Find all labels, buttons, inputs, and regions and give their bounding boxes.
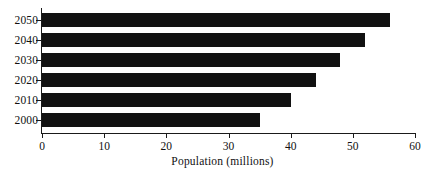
bar-row xyxy=(42,10,415,30)
x-tick-mark-30 xyxy=(229,133,230,138)
bar-2040 xyxy=(42,33,365,47)
x-tick-mark-40 xyxy=(291,133,292,138)
bar-row xyxy=(42,110,415,130)
bar-2000 xyxy=(42,113,260,127)
plot-area xyxy=(42,8,415,133)
x-tick-label-50: 50 xyxy=(333,140,373,152)
bar-2010 xyxy=(42,93,291,107)
y-tick-2010 xyxy=(36,100,42,101)
y-tick-label-wrap: 2030 xyxy=(0,50,38,70)
x-tick-mark-50 xyxy=(353,133,354,138)
bar-row xyxy=(42,90,415,110)
y-tick-label-wrap: 2050 xyxy=(0,10,38,30)
y-axis-labels: 205020402030202020102000 xyxy=(0,8,38,133)
y-tick-label-2020: 2020 xyxy=(2,70,38,90)
x-tick-label-30: 30 xyxy=(209,140,249,152)
y-tick-label-2000: 2000 xyxy=(2,110,38,130)
y-tick-label-wrap: 2040 xyxy=(0,30,38,50)
bar-2030 xyxy=(42,53,340,67)
bar-2020 xyxy=(42,73,316,87)
bar-row xyxy=(42,70,415,90)
y-tick-2030 xyxy=(36,60,42,61)
x-tick-label-60: 60 xyxy=(395,140,435,152)
y-tick-2000 xyxy=(36,120,42,121)
y-tick-2020 xyxy=(36,80,42,81)
y-tick-label-2030: 2030 xyxy=(2,50,38,70)
x-tick-label-20: 20 xyxy=(146,140,186,152)
x-tick-mark-0 xyxy=(42,133,43,138)
y-tick-2040 xyxy=(36,40,42,41)
x-tick-mark-60 xyxy=(415,133,416,138)
x-tick-mark-20 xyxy=(166,133,167,138)
bar-row xyxy=(42,50,415,70)
y-tick-2050 xyxy=(36,20,42,21)
x-axis-title: Population (millions) xyxy=(0,155,445,167)
bar-series-population xyxy=(42,8,415,133)
y-tick-label-wrap: 2020 xyxy=(0,70,38,90)
bar-2050 xyxy=(42,13,390,27)
y-tick-label-wrap: 2010 xyxy=(0,90,38,110)
y-tick-label-2040: 2040 xyxy=(2,30,38,50)
y-tick-label-2010: 2010 xyxy=(2,90,38,110)
x-tick-mark-10 xyxy=(104,133,105,138)
y-tick-label-wrap: 2000 xyxy=(0,110,38,130)
x-tick-label-10: 10 xyxy=(84,140,124,152)
x-tick-label-0: 0 xyxy=(22,140,62,152)
x-tick-label-40: 40 xyxy=(271,140,311,152)
bar-row xyxy=(42,30,415,50)
bar-chart: 205020402030202020102000 0102030405060 P… xyxy=(0,0,445,178)
y-tick-label-2050: 2050 xyxy=(2,10,38,30)
